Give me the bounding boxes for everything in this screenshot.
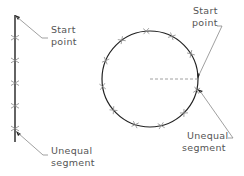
- division-mark: [102, 57, 109, 64]
- circle-figure: Start point Unequal segment: [99, 5, 233, 153]
- circle-unequal-label-1: Unequal: [187, 130, 228, 141]
- circle-start-label-1: Start: [193, 5, 218, 16]
- division-mark: [132, 121, 139, 128]
- circle-division-marks: [99, 28, 200, 129]
- line-unequal-label-1: Unequal: [51, 145, 92, 156]
- division-mark: [187, 50, 195, 58]
- line-start-label-2: point: [51, 36, 77, 47]
- start-point-leader: [17, 17, 48, 38]
- line-figure: Start point Unequal segment: [11, 15, 95, 168]
- line-start-label-1: Start: [51, 24, 76, 35]
- line-unequal-label-2: segment: [51, 157, 95, 168]
- diagram-canvas: Start point Unequal segment Start point …: [0, 0, 244, 176]
- circle-start-leader: [199, 26, 222, 75]
- circle-unequal-label-2: segment: [182, 142, 226, 153]
- circle-start-label-2: point: [192, 17, 218, 28]
- division-mark: [168, 32, 176, 40]
- unequal-segment-leader: [18, 133, 48, 155]
